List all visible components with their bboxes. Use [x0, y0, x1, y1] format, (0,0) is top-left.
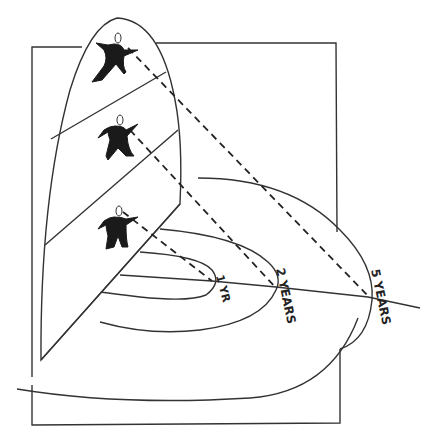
- diagram-canvas: 1 YR 2 YEARS 5 YEARS: [0, 0, 445, 446]
- back-frame-bottom: [32, 349, 340, 425]
- label-two-years: 2 YEARS: [273, 267, 298, 325]
- label-one-year: 1 YR: [213, 273, 233, 304]
